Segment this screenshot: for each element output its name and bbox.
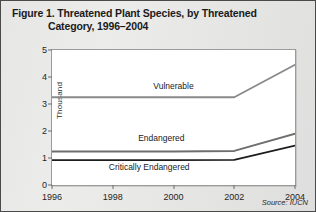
figure-page: Figure 1. Threatened Plant Species, by T… [0, 0, 316, 212]
figure-title-line-2: Category, 1996–2004 [12, 20, 292, 33]
x-axis-tick-label: 2000 [163, 192, 183, 202]
series-line [52, 146, 295, 161]
series-label: Endangered [138, 133, 184, 143]
x-axis-tick-mark [295, 185, 296, 189]
x-axis-tick-label: 2002 [224, 192, 244, 202]
chart-plot-area: Thousand 012345 19961998200020022004 Vul… [51, 49, 296, 186]
x-axis-tick-mark [52, 185, 53, 189]
series-label: Vulnerable [153, 81, 193, 91]
x-axis-tick-label: 1998 [103, 192, 123, 202]
source-attribution: Source: IUCN [262, 198, 308, 207]
x-axis-tick-mark [112, 185, 113, 189]
x-axis-tick-mark [234, 185, 235, 189]
series-label: Critically Endangered [109, 162, 190, 172]
figure-title-line-1: Figure 1. Threatened Plant Species, by T… [12, 7, 257, 19]
x-axis-tick-label: 1996 [42, 192, 62, 202]
x-axis-tick-mark [173, 185, 174, 189]
figure-title: Figure 1. Threatened Plant Species, by T… [12, 7, 292, 33]
